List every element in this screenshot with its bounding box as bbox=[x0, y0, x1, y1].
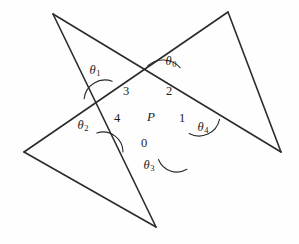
theta-subscript: 2 bbox=[84, 123, 89, 133]
theta-3-label: θ3 bbox=[144, 159, 155, 173]
theta-subscript: 3 bbox=[150, 163, 155, 173]
edge-left-to-bottom bbox=[24, 152, 156, 227]
region-label-4: 4 bbox=[114, 112, 120, 125]
edge-right-to-topright bbox=[228, 12, 281, 152]
arc-theta-3 bbox=[158, 159, 187, 172]
theta-1-label: θ1 bbox=[90, 64, 101, 78]
theta-subscript: 0 bbox=[172, 59, 177, 69]
pentagram-figure: θ0θ1θ2θ3θ401234P bbox=[0, 0, 299, 244]
theta-subscript: 4 bbox=[204, 125, 209, 135]
region-label-3: 3 bbox=[123, 85, 129, 98]
theta-0-label: θ0 bbox=[166, 55, 177, 69]
region-label-2: 2 bbox=[166, 85, 172, 98]
region-label-0: 0 bbox=[141, 137, 147, 150]
theta-2-label: θ2 bbox=[78, 119, 89, 133]
center-point-label: P bbox=[147, 110, 155, 123]
region-label-1: 1 bbox=[179, 112, 185, 125]
arc-theta-1 bbox=[84, 80, 112, 99]
theta-subscript: 1 bbox=[96, 68, 101, 78]
theta-4-label: θ4 bbox=[198, 121, 209, 135]
